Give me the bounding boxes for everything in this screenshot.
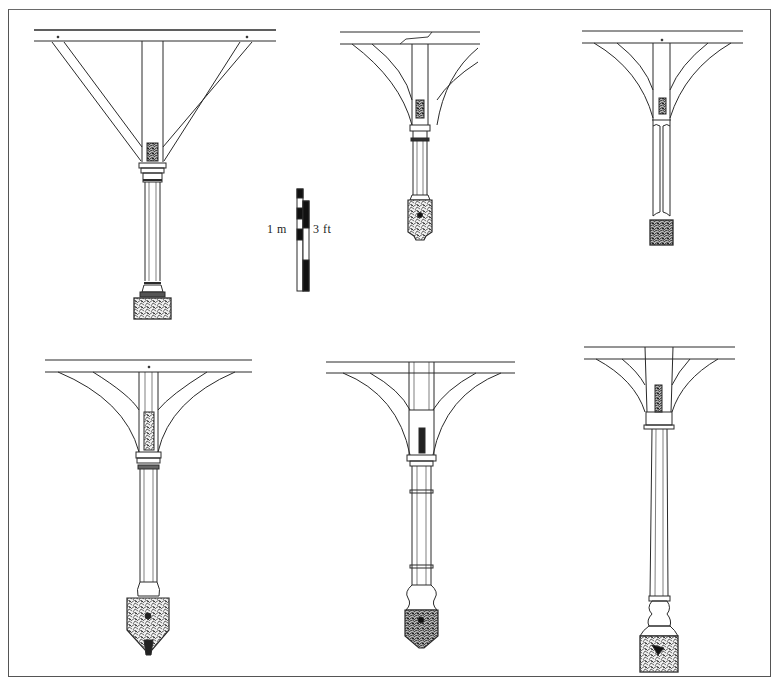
panel-bottom-right	[584, 347, 735, 672]
scale-label-imperial: 3 ft	[313, 222, 331, 237]
panel-top-right	[582, 31, 743, 245]
panel-bottom-middle	[326, 362, 515, 648]
scale-bar	[297, 189, 309, 291]
panel-bottom-left	[45, 360, 252, 655]
scale-label-metric: 1 m	[267, 222, 287, 237]
panel-top-left	[34, 30, 276, 319]
panel-top-middle	[340, 32, 480, 240]
elevation-drawings	[0, 0, 773, 680]
